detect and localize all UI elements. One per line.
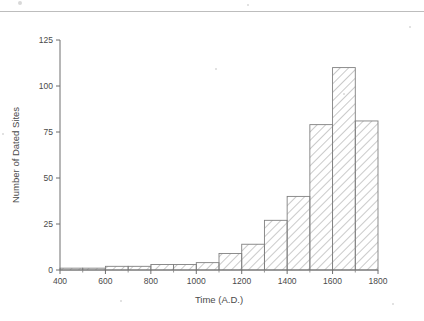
histogram-bar — [310, 125, 333, 270]
y-axis-title: Number of Dated Sites — [10, 107, 21, 203]
scan-artifact-speck — [247, 4, 249, 6]
histogram-bar — [151, 264, 174, 270]
y-tick-label: 0 — [48, 265, 53, 275]
x-tick-label: 600 — [98, 276, 112, 286]
x-tick-label: 1800 — [369, 276, 388, 286]
x-tick-label: 1600 — [323, 276, 342, 286]
y-tick-label: 50 — [44, 173, 54, 183]
histogram-bars — [60, 68, 378, 270]
histogram-bar — [105, 266, 128, 270]
x-tick-label: 1000 — [187, 276, 206, 286]
scan-artifact-speck — [18, 1, 22, 5]
histogram-bar — [219, 253, 242, 270]
y-tick-label: 25 — [44, 219, 54, 229]
x-tick-label: 1400 — [278, 276, 297, 286]
histogram-bar — [287, 196, 310, 270]
x-tick-label: 1200 — [232, 276, 251, 286]
y-tick-label: 75 — [44, 127, 54, 137]
x-axis-ticks: 40060080010001200140016001800 — [53, 270, 388, 286]
x-axis-title: Time (A.D.) — [195, 294, 243, 305]
figure-canvas: 0255075100125 40060080010001200140016001… — [0, 0, 424, 321]
scan-artifact-speck — [392, 303, 394, 305]
x-tick-label: 400 — [53, 276, 67, 286]
y-tick-label: 125 — [39, 35, 53, 45]
scan-artifact-speck — [120, 300, 122, 302]
scan-artifact-speck — [409, 26, 411, 28]
scan-artifact-speck — [343, 93, 345, 95]
scan-artifact-speck — [2, 133, 4, 135]
histogram-bar — [355, 121, 378, 270]
histogram-bar — [264, 220, 287, 270]
histogram-bar — [196, 263, 219, 270]
histogram-bar — [174, 264, 197, 270]
histogram-plot: 0255075100125 40060080010001200140016001… — [0, 0, 424, 321]
y-axis-ticks: 0255075100125 — [39, 35, 60, 275]
y-tick-label: 100 — [39, 81, 53, 91]
scan-artifact-rule — [0, 11, 424, 12]
histogram-bar — [242, 244, 265, 270]
x-tick-label: 800 — [144, 276, 158, 286]
scan-artifact-speck — [215, 68, 217, 70]
histogram-bar — [333, 68, 356, 270]
histogram-bar — [128, 266, 151, 270]
